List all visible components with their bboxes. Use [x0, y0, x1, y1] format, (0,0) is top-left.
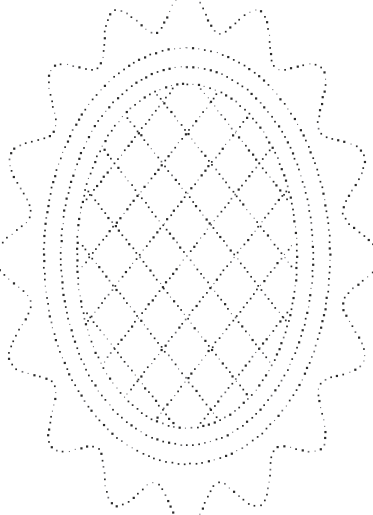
- paper-background: [0, 0, 373, 515]
- dotted-pattern-drawing: [0, 0, 373, 515]
- pattern-canvas: [0, 0, 373, 515]
